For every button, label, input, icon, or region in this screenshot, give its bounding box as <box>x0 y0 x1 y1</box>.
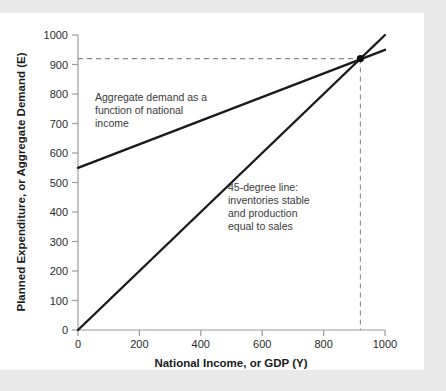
y-tick-label: 900 <box>50 59 68 71</box>
y-tick-label: 600 <box>50 147 68 159</box>
y-tick-label: 300 <box>50 236 68 248</box>
y-tick-label: 1000 <box>44 29 68 41</box>
y-tick-label: 500 <box>50 177 68 189</box>
annotation-aggregate-demand: Aggregate demand as a function of nation… <box>95 91 207 129</box>
y-tick-label: 400 <box>50 206 68 218</box>
x-axis-tick-labels: 0 200 400 600 800 1000 <box>75 338 397 350</box>
y-tick-label: 100 <box>50 295 68 307</box>
x-tick-label: 800 <box>314 338 332 350</box>
equilibrium-point-marker <box>357 55 364 62</box>
y-tick-label: 200 <box>50 265 68 277</box>
x-tick-label: 600 <box>253 338 271 350</box>
y-tick-label: 0 <box>62 324 68 336</box>
figure-container: 1000 900 800 700 600 500 400 300 200 100… <box>0 0 446 391</box>
y-axis-tick-labels: 1000 900 800 700 600 500 400 300 200 100… <box>44 29 68 336</box>
y-axis-title: Planned Expenditure, or Aggregate Demand… <box>15 52 27 311</box>
annotation-line: equal to sales <box>228 220 293 232</box>
annotation-line: 45-degree line: <box>228 181 298 193</box>
annotation-line: income <box>95 117 129 129</box>
y-tick-label: 800 <box>50 88 68 100</box>
x-tick-label: 1000 <box>373 338 397 350</box>
annotation-line: inventories stable <box>228 194 310 206</box>
y-tick-label: 700 <box>50 118 68 130</box>
x-axis-title: National Income, or GDP (Y) <box>154 357 307 369</box>
annotation-line: and production <box>228 207 298 219</box>
x-axis-ticks <box>78 330 385 336</box>
x-tick-label: 0 <box>75 338 81 350</box>
x-tick-label: 400 <box>192 338 210 350</box>
x-tick-label: 200 <box>130 338 148 350</box>
chart-canvas: 1000 900 800 700 600 500 400 300 200 100… <box>0 0 446 391</box>
y-axis-ticks <box>72 35 78 330</box>
annotation-line: Aggregate demand as a <box>95 91 207 103</box>
annotation-line: function of national <box>95 104 183 116</box>
annotation-forty-five-degree: 45-degree line: inventories stable and p… <box>228 181 310 232</box>
